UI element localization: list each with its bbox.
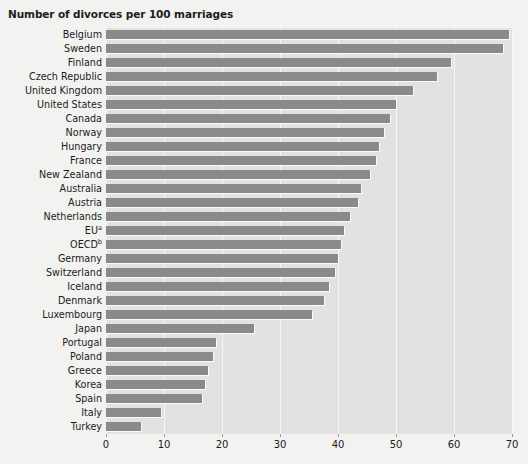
bar-row bbox=[106, 294, 512, 308]
bar-row bbox=[106, 280, 512, 294]
tick-mark-0 bbox=[106, 434, 107, 437]
category-label-new-zealand: New Zealand bbox=[0, 169, 102, 180]
bar-czech-republic bbox=[106, 72, 437, 80]
tick-label-10: 10 bbox=[158, 439, 171, 450]
bar-row bbox=[106, 70, 512, 84]
bar-row bbox=[106, 140, 512, 154]
bar-oecd bbox=[106, 240, 341, 248]
bar-eu bbox=[106, 226, 344, 234]
bar-netherlands bbox=[106, 212, 350, 220]
category-label-sweden: Sweden bbox=[0, 43, 102, 54]
tick-mark-60 bbox=[454, 434, 455, 437]
bar-poland bbox=[106, 352, 213, 360]
category-label-netherlands: Netherlands bbox=[0, 211, 102, 222]
category-label-finland: Finland bbox=[0, 57, 102, 68]
bar-australia bbox=[106, 184, 361, 192]
tick-mark-40 bbox=[338, 434, 339, 437]
bar-france bbox=[106, 156, 376, 164]
bar-row bbox=[106, 392, 512, 406]
bar-row bbox=[106, 210, 512, 224]
bar-japan bbox=[106, 324, 254, 332]
tick-label-20: 20 bbox=[216, 439, 229, 450]
bar-canada bbox=[106, 114, 390, 122]
bar-row bbox=[106, 252, 512, 266]
bar-row bbox=[106, 98, 512, 112]
category-label-canada: Canada bbox=[0, 113, 102, 124]
category-label-france: France bbox=[0, 155, 102, 166]
bar-united-states bbox=[106, 100, 396, 108]
bar-row bbox=[106, 364, 512, 378]
gridline-70 bbox=[512, 28, 513, 434]
divorce-rate-bar-chart: Number of divorces per 100 marriages Bel… bbox=[0, 0, 528, 464]
tick-label-70: 70 bbox=[506, 439, 519, 450]
category-label-spain: Spain bbox=[0, 393, 102, 404]
bar-row bbox=[106, 56, 512, 70]
category-label-united-states: United States bbox=[0, 99, 102, 110]
category-label-portugal: Portugal bbox=[0, 337, 102, 348]
bar-row bbox=[106, 112, 512, 126]
value-axis: 010203040506070 bbox=[106, 434, 512, 464]
tick-mark-70 bbox=[512, 434, 513, 437]
tick-label-0: 0 bbox=[103, 439, 109, 450]
bar-row bbox=[106, 42, 512, 56]
category-label-oecd: OECDb bbox=[0, 239, 102, 250]
bar-row bbox=[106, 126, 512, 140]
bar-row bbox=[106, 182, 512, 196]
category-axis-labels: BelgiumSwedenFinlandCzech RepublicUnited… bbox=[0, 28, 102, 434]
category-label-austria: Austria bbox=[0, 197, 102, 208]
bar-row bbox=[106, 420, 512, 434]
bar-row bbox=[106, 238, 512, 252]
plot-area bbox=[106, 28, 512, 434]
bar-germany bbox=[106, 254, 338, 262]
category-label-belgium: Belgium bbox=[0, 29, 102, 40]
category-label-italy: Italy bbox=[0, 407, 102, 418]
tick-label-40: 40 bbox=[332, 439, 345, 450]
bar-row bbox=[106, 168, 512, 182]
bar-korea bbox=[106, 380, 205, 388]
tick-mark-10 bbox=[164, 434, 165, 437]
bar-row bbox=[106, 322, 512, 336]
tick-mark-20 bbox=[222, 434, 223, 437]
category-label-luxembourg: Luxembourg bbox=[0, 309, 102, 320]
tick-mark-50 bbox=[396, 434, 397, 437]
bar-belgium bbox=[106, 30, 509, 38]
tick-label-60: 60 bbox=[448, 439, 461, 450]
category-label-australia: Australia bbox=[0, 183, 102, 194]
bar-row bbox=[106, 350, 512, 364]
chart-title-band: Number of divorces per 100 marriages bbox=[8, 4, 520, 24]
bar-row bbox=[106, 196, 512, 210]
bar-denmark bbox=[106, 296, 324, 304]
tick-label-30: 30 bbox=[274, 439, 287, 450]
bar-row bbox=[106, 84, 512, 98]
category-label-korea: Korea bbox=[0, 379, 102, 390]
bar-hungary bbox=[106, 142, 379, 150]
category-label-iceland: Iceland bbox=[0, 281, 102, 292]
bar-series bbox=[106, 28, 512, 434]
bar-portugal bbox=[106, 338, 216, 346]
bar-luxembourg bbox=[106, 310, 312, 318]
bar-row bbox=[106, 154, 512, 168]
bar-greece bbox=[106, 366, 208, 374]
bar-row bbox=[106, 378, 512, 392]
bar-row bbox=[106, 224, 512, 238]
category-label-turkey: Turkey bbox=[0, 421, 102, 432]
category-label-czech-republic: Czech Republic bbox=[0, 71, 102, 82]
bar-row bbox=[106, 336, 512, 350]
bar-row bbox=[106, 266, 512, 280]
bar-row bbox=[106, 308, 512, 322]
bar-turkey bbox=[106, 422, 141, 430]
category-label-poland: Poland bbox=[0, 351, 102, 362]
bar-finland bbox=[106, 58, 451, 66]
category-label-greece: Greece bbox=[0, 365, 102, 376]
page-title: Number of divorces per 100 marriages bbox=[8, 8, 233, 20]
category-label-united-kingdom: United Kingdom bbox=[0, 85, 102, 96]
tick-mark-30 bbox=[280, 434, 281, 437]
bar-sweden bbox=[106, 44, 503, 52]
category-label-hungary: Hungary bbox=[0, 141, 102, 152]
bar-iceland bbox=[106, 282, 329, 290]
bar-italy bbox=[106, 408, 161, 416]
bar-austria bbox=[106, 198, 358, 206]
bar-row bbox=[106, 406, 512, 420]
category-label-japan: Japan bbox=[0, 323, 102, 334]
category-label-eu: EUa bbox=[0, 225, 102, 236]
